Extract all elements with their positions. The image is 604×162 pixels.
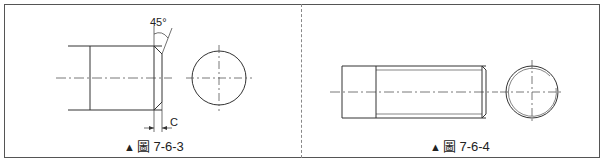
triangle-marker-icon: ▲ xyxy=(430,141,441,153)
figure-caption: ▲圖 7-6-3 xyxy=(124,136,184,155)
triangle-marker-icon: ▲ xyxy=(124,141,135,153)
threaded-shaft-drawing xyxy=(302,4,600,158)
caption-text: 圖 7-6-3 xyxy=(137,139,184,154)
figure-7-6-3-panel: 45° C ▲圖 7-6-3 xyxy=(4,4,301,158)
caption-text: 圖 7-6-4 xyxy=(443,139,490,154)
angle-label: 45° xyxy=(150,16,167,28)
chamfer-label: C xyxy=(170,116,178,128)
figure-caption: ▲圖 7-6-4 xyxy=(430,136,490,155)
figure-7-6-4-panel: ▲圖 7-6-4 xyxy=(302,4,600,158)
